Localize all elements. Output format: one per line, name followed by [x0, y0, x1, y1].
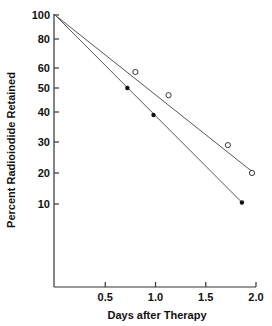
filled-circle-marker	[125, 86, 129, 90]
y-tick-label: 20	[38, 167, 50, 179]
open-circle-marker	[225, 143, 230, 148]
filled-circle-marker	[240, 200, 244, 204]
y-tick-label: 80	[38, 33, 50, 45]
fit-lines	[55, 15, 252, 202]
open-circle-marker	[249, 170, 254, 175]
y-tick-label: 50	[38, 82, 50, 94]
x-tick-label: 1.5	[198, 291, 213, 303]
x-tick-label: 0.5	[98, 291, 113, 303]
y-axis-title: Percent Radioiodide Retained	[5, 72, 17, 228]
filled-circles-fit-line	[55, 15, 242, 202]
chart: 10080605040302010 0.51.01.52.0 Percent R…	[0, 0, 272, 326]
open-circle-marker	[166, 93, 171, 98]
x-tick-label: 2.0	[248, 291, 263, 303]
y-tick-label: 30	[38, 136, 50, 148]
x-tick-label: 1.0	[148, 291, 163, 303]
data-points	[125, 69, 254, 204]
y-tick-label: 40	[38, 106, 50, 118]
y-tick-label: 10	[38, 198, 50, 210]
open-circle-marker	[133, 69, 138, 74]
y-tick-label: 100	[32, 9, 50, 21]
y-tick-label: 60	[38, 62, 50, 74]
x-axis-title: Days after Therapy	[107, 309, 207, 321]
open-circles-fit-line	[55, 15, 252, 171]
x-axis-ticks: 0.51.01.52.0	[98, 282, 264, 303]
y-axis-ticks: 10080605040302010	[32, 9, 59, 210]
filled-circle-marker	[151, 113, 155, 117]
